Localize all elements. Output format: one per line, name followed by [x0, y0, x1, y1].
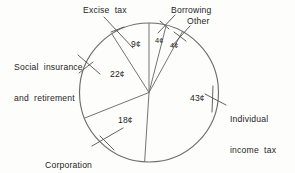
slice-value-other: 4¢: [170, 41, 178, 51]
slice-value-individual-income-tax: 43¢: [190, 94, 205, 104]
slice-value-social-insurance: 22¢: [110, 70, 125, 80]
leader-tick-individual: [212, 86, 213, 112]
slice-label-social-insurance-line2: and retirement: [14, 93, 83, 103]
slice-label-social-insurance-line1: Social insurance: [14, 62, 83, 72]
slice-label-social-insurance: Social insurance and retirement: [14, 42, 83, 124]
slice-label-corporation-income-tax-line1: Corporation: [45, 160, 92, 170]
slice-value-excise-tax: 9¢: [131, 40, 141, 50]
slice-label-excise-tax: Excise tax: [83, 5, 127, 15]
spoke-69pct: [84, 93, 149, 119]
spoke-51pct: [145, 93, 149, 162]
leader-excise: [104, 17, 133, 48]
slice-label-borrowing: Borrowing: [171, 5, 212, 15]
pie-chart-figure: Excise tax Borrowing Other Social insura…: [0, 0, 295, 173]
leader-individual: [205, 94, 226, 105]
slice-label-individual-income-tax: Individual income tax: [230, 94, 276, 173]
slice-label-individual-income-tax-line2: income tax: [230, 145, 276, 155]
slice-value-borrowing: 4¢: [155, 36, 163, 46]
slice-label-corporation-income-tax: Corporation income tax: [45, 140, 92, 173]
slice-label-individual-income-tax-line1: Individual: [230, 114, 276, 124]
slice-label-other: Other: [187, 16, 210, 26]
slice-value-corporation-income-tax: 18¢: [118, 116, 133, 126]
leader-tick-other: [174, 32, 186, 41]
